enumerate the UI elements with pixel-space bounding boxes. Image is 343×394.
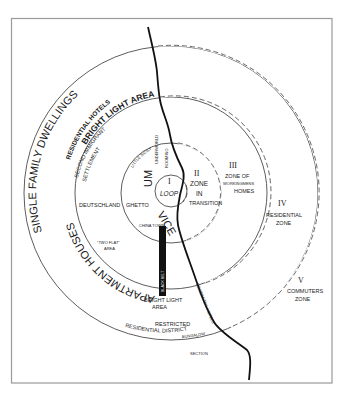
restricted-label-1: RESTRICTED [155,321,190,327]
bright-light-bottom-label-1: BRIGHT LIGHT [144,297,183,303]
single-family-dwellings-label: SINGLE FAMILY DWELLINGS [26,88,80,235]
two-flat-label-2: AREA [104,246,115,251]
underworld-label: UNDERWORLD [154,135,159,164]
zone-ii-numeral: II [194,169,200,178]
zone-ii-label-3: TRANSITION [189,200,222,206]
zone-iii-label-1: ZONE OF [225,173,250,179]
zone-iii-label-2: WORKINGMENS [223,181,254,186]
zone-v-numeral: V [298,276,304,285]
zone-ii-label-2: IN [196,190,203,197]
two-flat-label-1: "TWO FLAT" [97,240,120,245]
zone-v-label-2: ZONE [295,296,311,302]
zone-iv-label-1: RESIDENTIAL [266,212,302,218]
diagram-canvas: BLACK BELT SINGLE FAMILY DWELLINGS RESID… [0,0,343,394]
little-sicily-label: LITTLE SICILY [130,146,153,169]
loop-label: LOOP [160,190,179,197]
zone-iii-label-3: HOMES [234,188,255,194]
bungalow-label: BUNGALOW [182,331,206,339]
rooming-label: ROOMING [164,148,169,168]
zone-i-numeral: I [168,177,171,186]
deutschland-label: DEUTSCHLAND [79,202,120,208]
bright-light-bottom-label-2: AREA [152,304,167,310]
residential-hotels-river-label: RESIDENTIAL HOTELS [195,283,216,325]
zone-v-label-1: COMMUTERS [287,288,323,294]
bungalow-section-label: SECTION [190,351,208,356]
ghetto-label: GHETTO [126,202,150,208]
slum-label-um: UM [142,170,154,187]
black-belt-label: BLACK BELT [161,270,165,292]
zone-iv-numeral: IV [278,199,287,208]
concentric-zone-diagram: BLACK BELT SINGLE FAMILY DWELLINGS RESID… [0,0,343,394]
china-town-label: CHINA TOWN [139,223,165,228]
zone-iii-numeral: III [229,161,237,170]
zone-ii-label-1: ZONE [190,180,209,187]
zone-iv-label-2: ZONE [276,220,292,226]
